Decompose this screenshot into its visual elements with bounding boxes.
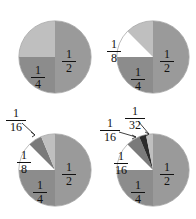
pie-chart-2: 1 2 1 4 1 8: [98, 0, 196, 110]
label-eighth: 1 8: [107, 38, 121, 64]
label-half: 1 2: [160, 48, 174, 74]
pie-2-slices: [117, 21, 189, 93]
label-eighth: 1 16: [114, 150, 128, 176]
label-quarter: 1 4: [131, 179, 145, 205]
pie-1-slices: [19, 21, 91, 93]
label-half: 1 2: [62, 161, 76, 187]
label-sixteenth: 1 16: [100, 117, 120, 143]
pie-chart-1: 1 2 1 4: [0, 0, 98, 110]
label-quarter: 1 4: [33, 179, 47, 205]
label-half: 1 2: [62, 48, 76, 74]
slice-remainder: [19, 21, 55, 57]
leader-line-sixteenth: [119, 132, 136, 137]
pie-chart-4: 1 2 1 4 1 16 1 16 1 32: [98, 105, 196, 215]
label-eighth: 1 8: [17, 149, 31, 175]
label-quarter: 1 4: [131, 66, 145, 92]
geometric-series-figure: 1 2 1 4 1 2 1 4: [0, 0, 196, 219]
label-quarter: 1 4: [31, 64, 45, 90]
label-sixteenth: 1 16: [6, 107, 26, 133]
pie-chart-3: 1 2 1 4 1 8 1 16: [0, 105, 98, 215]
pie-1-graphic: [0, 0, 98, 114]
label-half: 1 2: [160, 161, 174, 187]
label-thirtysecond: 1 32: [125, 105, 145, 131]
